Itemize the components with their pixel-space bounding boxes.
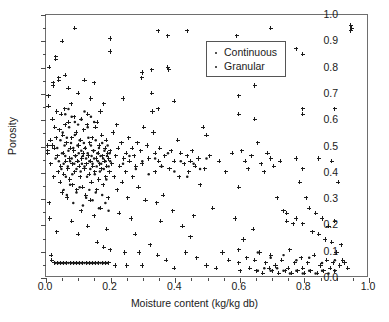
y-tick-minor <box>43 239 46 240</box>
y-tick-label: 1.0 <box>308 9 338 20</box>
x-tick-label: 1.0 <box>351 281 385 292</box>
x-tick-minor <box>256 278 257 281</box>
y-tick-label: 0.2 <box>308 219 338 230</box>
x-tick-label: 0.0 <box>28 281 62 292</box>
y-tick-label: 0.1 <box>308 246 338 257</box>
y-tick-major <box>41 225 46 226</box>
y-tick-major <box>41 252 46 253</box>
y-tick-label: 0.8 <box>308 62 338 73</box>
x-tick-minor <box>78 278 79 281</box>
y-tick-major <box>41 147 46 148</box>
y-tick-label: 0.3 <box>308 193 338 204</box>
y-tick-minor <box>43 107 46 108</box>
y-tick-label: 0.7 <box>308 88 338 99</box>
y-tick-minor <box>43 133 46 134</box>
y-tick-minor <box>43 265 46 266</box>
legend-label-granular: Granular <box>224 61 265 72</box>
legend-label-continuous: Continuous <box>224 47 277 58</box>
scatter-chart-figure: Porosity Continuous Granular 0.00.10.20.… <box>0 0 389 322</box>
y-tick-major <box>41 41 46 42</box>
x-axis-title: Moisture content (kg/kg db) <box>0 297 389 309</box>
y-tick-major <box>41 199 46 200</box>
legend-marker-dot-icon <box>212 48 221 57</box>
y-axis-title: Porosity <box>6 96 18 176</box>
y-tick-minor <box>43 212 46 213</box>
x-tick-label: 0.2 <box>93 281 127 292</box>
legend-item-continuous: Continuous <box>212 45 277 59</box>
chart-legend: Continuous Granular <box>206 41 286 77</box>
y-tick-label: 0.5 <box>308 141 338 152</box>
x-tick-minor <box>143 278 144 281</box>
y-tick-label: 0.4 <box>308 167 338 178</box>
legend-marker-dot-icon <box>212 62 221 71</box>
x-tick-label: 0.8 <box>286 281 320 292</box>
x-tick-label: 0.4 <box>157 281 191 292</box>
y-tick-major <box>41 173 46 174</box>
y-tick-minor <box>43 81 46 82</box>
y-tick-label: 0.9 <box>308 35 338 46</box>
y-tick-minor <box>43 186 46 187</box>
x-tick-minor <box>62 278 63 281</box>
y-tick-label: 0.6 <box>308 114 338 125</box>
y-tick-minor <box>43 54 46 55</box>
x-tick-label: 0.6 <box>222 281 256 292</box>
y-tick-major <box>41 94 46 95</box>
y-tick-major <box>41 120 46 121</box>
x-tick-minor <box>127 278 128 281</box>
legend-item-granular: Granular <box>212 59 277 73</box>
y-tick-minor <box>43 28 46 29</box>
y-tick-major <box>41 15 46 16</box>
x-tick-minor <box>191 278 192 281</box>
y-tick-minor <box>43 160 46 161</box>
x-tick-minor <box>208 278 209 281</box>
y-tick-major <box>41 68 46 69</box>
x-tick-minor <box>272 278 273 281</box>
